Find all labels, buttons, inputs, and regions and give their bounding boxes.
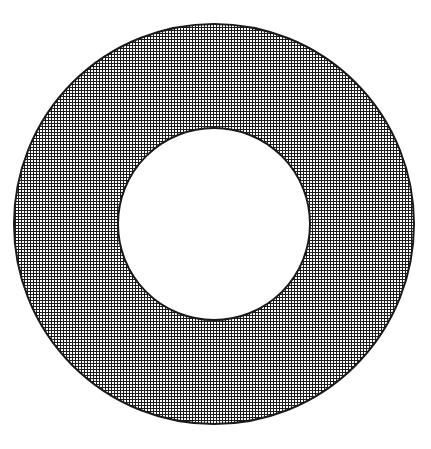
annulus-diagram xyxy=(0,0,431,449)
figure-canvas xyxy=(0,0,431,449)
annulus-hatched-band xyxy=(0,0,431,449)
